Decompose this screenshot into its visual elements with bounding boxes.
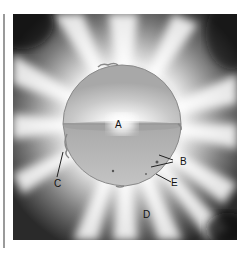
label-d: D <box>143 210 150 220</box>
label-a: A <box>115 120 122 130</box>
sunspot <box>145 173 147 175</box>
sun-diagram-figure: A B C D E <box>13 14 237 240</box>
left-margin-rule <box>3 14 5 248</box>
sunspot <box>156 161 159 164</box>
label-b: B <box>180 157 187 167</box>
label-e: E <box>171 178 178 188</box>
label-c: C <box>54 179 61 189</box>
sunspot <box>112 170 114 172</box>
sun-illustration <box>13 14 237 240</box>
